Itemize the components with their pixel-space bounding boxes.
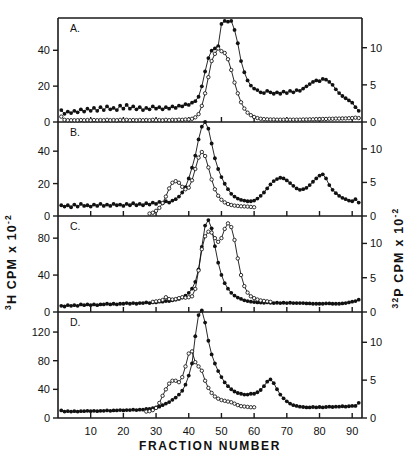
- marker-32P: [138, 408, 142, 412]
- marker-3H: [167, 297, 170, 300]
- marker-32P: [311, 180, 315, 184]
- marker-32P: [76, 205, 80, 209]
- marker-32P: [121, 204, 125, 208]
- marker-32P: [112, 302, 116, 306]
- marker-32P: [66, 409, 70, 413]
- marker-3H: [203, 154, 206, 157]
- marker-32P: [246, 199, 250, 203]
- marker-32P: [318, 405, 322, 409]
- marker-32P: [226, 287, 230, 291]
- marker-32P: [327, 80, 331, 84]
- series-line-32P: [61, 122, 358, 207]
- marker-32P: [197, 138, 201, 142]
- right-tick-label: 0: [370, 116, 376, 128]
- panel-d: 040801200510D.: [32, 309, 383, 424]
- marker-3H: [158, 206, 161, 209]
- marker-3H: [151, 408, 154, 411]
- marker-32P: [210, 353, 214, 357]
- marker-32P: [86, 409, 90, 413]
- marker-32P: [249, 300, 253, 304]
- panel-letter: A.: [70, 22, 80, 34]
- marker-32P: [63, 410, 67, 414]
- marker-3H: [226, 400, 229, 403]
- marker-3H: [223, 51, 226, 54]
- marker-3H: [230, 203, 233, 206]
- marker-32P: [252, 300, 256, 304]
- marker-32P: [321, 172, 325, 176]
- marker-32P: [301, 301, 305, 305]
- marker-32P: [141, 108, 145, 112]
- marker-32P: [118, 104, 122, 108]
- marker-32P: [180, 389, 184, 393]
- marker-32P: [337, 405, 341, 409]
- marker-32P: [308, 406, 312, 410]
- marker-32P: [318, 79, 322, 83]
- marker-32P: [337, 91, 341, 95]
- marker-32P: [246, 393, 250, 397]
- marker-32P: [344, 197, 348, 201]
- marker-3H: [220, 49, 223, 52]
- marker-3H: [216, 240, 219, 243]
- marker-32P: [121, 409, 125, 413]
- marker-32P: [144, 106, 148, 110]
- marker-32P: [288, 301, 292, 305]
- marker-32P: [92, 203, 96, 207]
- marker-32P: [102, 409, 106, 413]
- marker-3H: [200, 150, 203, 153]
- marker-32P: [334, 87, 338, 91]
- marker-32P: [314, 406, 318, 410]
- marker-3H: [269, 300, 272, 303]
- marker-32P: [265, 380, 269, 384]
- marker-32P: [324, 302, 328, 306]
- marker-32P: [347, 199, 351, 203]
- marker-32P: [233, 294, 237, 298]
- marker-3H: [158, 401, 161, 404]
- marker-32P: [79, 409, 83, 413]
- marker-3H: [220, 398, 223, 401]
- series-line-3H: [146, 351, 254, 411]
- marker-32P: [324, 78, 328, 82]
- marker-32P: [115, 108, 119, 112]
- marker-3H: [252, 206, 255, 209]
- marker-32P: [350, 404, 354, 408]
- left-tick-label: 120: [32, 326, 50, 338]
- marker-32P: [171, 398, 175, 402]
- marker-32P: [311, 80, 315, 84]
- x-tick-label: 70: [281, 425, 293, 437]
- marker-32P: [226, 187, 230, 191]
- marker-32P: [213, 244, 217, 248]
- marker-32P: [265, 187, 269, 191]
- right-tick-label: 0: [370, 210, 376, 222]
- marker-32P: [282, 90, 286, 94]
- marker-3H: [187, 118, 190, 121]
- marker-32P: [305, 406, 309, 410]
- marker-3H: [190, 295, 193, 298]
- marker-32P: [318, 174, 322, 178]
- marker-3H: [200, 369, 203, 372]
- marker-32P: [357, 201, 361, 205]
- marker-32P: [305, 84, 309, 88]
- marker-32P: [246, 299, 250, 303]
- marker-32P: [108, 303, 112, 307]
- left-tick-label: 0: [44, 412, 50, 424]
- marker-32P: [66, 303, 70, 307]
- marker-32P: [272, 92, 276, 96]
- marker-3H: [164, 195, 167, 198]
- marker-32P: [226, 20, 230, 24]
- marker-3H: [243, 284, 246, 287]
- marker-32P: [229, 192, 233, 196]
- svg-text:3H CPM x 10-2: 3H CPM x 10-2: [3, 214, 19, 310]
- marker-32P: [118, 302, 122, 306]
- marker-32P: [262, 91, 266, 95]
- marker-32P: [131, 301, 135, 305]
- marker-32P: [92, 106, 96, 110]
- marker-3H: [190, 179, 193, 182]
- marker-3H: [223, 227, 226, 230]
- marker-32P: [236, 41, 240, 45]
- marker-32P: [233, 390, 237, 394]
- marker-32P: [278, 301, 282, 305]
- marker-32P: [200, 84, 204, 88]
- marker-32P: [350, 300, 354, 304]
- marker-32P: [344, 96, 348, 100]
- x-tick-label: 90: [346, 425, 358, 437]
